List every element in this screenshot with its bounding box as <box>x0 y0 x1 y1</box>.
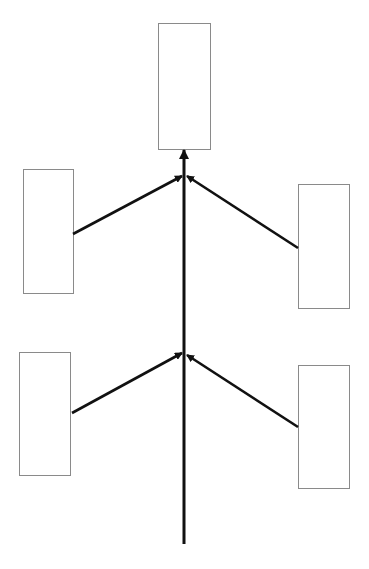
lower-left-arrow <box>72 353 182 413</box>
lower-right-arrow <box>187 355 298 427</box>
lower-right-box <box>299 366 350 489</box>
top-box <box>159 24 211 150</box>
upper-right-box <box>299 185 350 309</box>
fishbone-diagram <box>0 0 369 569</box>
upper-left-box <box>24 170 74 294</box>
upper-left-arrow <box>73 176 182 234</box>
lower-left-box <box>20 353 71 476</box>
upper-right-arrow <box>187 176 298 248</box>
